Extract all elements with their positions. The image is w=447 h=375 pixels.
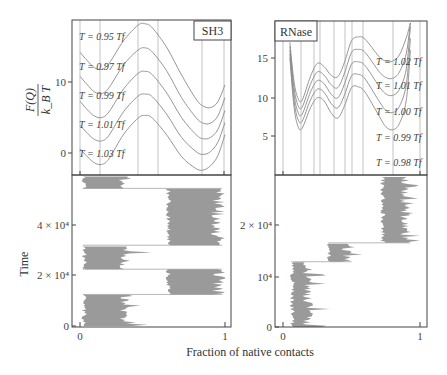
trajectory-segment	[327, 244, 363, 262]
sh3-time-axis: 0 2 × 10⁴ 4 × 10⁴	[37, 219, 76, 332]
trajectory-segment	[82, 295, 148, 326]
sh3-time-tick-label: 0	[64, 320, 70, 332]
sh3-y-tick-label: 10	[55, 76, 67, 88]
sh3-y-tick-label: 0	[61, 147, 67, 159]
trajectory-segment	[166, 189, 225, 245]
rnase-curve-label: T = 1.01 Tf	[376, 80, 423, 91]
sh3-label-box: SH3	[194, 21, 231, 40]
rnase-label: RNase	[280, 25, 312, 39]
rnase-trajectory	[290, 177, 420, 327]
rnase-curve-label: T = 1.02 Tf	[376, 56, 423, 67]
trajectory-segment	[380, 177, 420, 243]
rnase-curve-label: T = 0.99 Tf	[376, 132, 423, 143]
rnase-curve-label: T = 1.00 Tf	[376, 106, 423, 117]
sh3-curve-label: T = 0.95 Tf	[79, 31, 126, 42]
sh3-x-tick-label: 1	[222, 330, 228, 342]
sh3-label: SH3	[202, 24, 223, 38]
folding-figure: SH3 T = 0.95 Tf T = 0.97 Tf T = 0.99 Tf …	[0, 0, 447, 375]
free-energy-numerator: F(Q)	[23, 88, 37, 113]
rnase-x-tick-label: 0	[280, 330, 286, 342]
sh3-trajectory-panel: 0 2 × 10⁴ 4 × 10⁴ 0 1	[37, 175, 231, 342]
trajectory-segment	[290, 262, 330, 327]
sh3-curve-label: T = 1.01 Tf	[79, 119, 126, 130]
rnase-y-tick-label: 15	[257, 52, 269, 64]
rnase-curve-label: T = 0.98 Tf	[376, 157, 423, 168]
trajectory-segment	[166, 269, 225, 294]
rnase-x-tick-label: 1	[417, 330, 423, 342]
rnase-y-tick-label: 5	[263, 130, 269, 142]
trajectory-segment	[82, 246, 153, 269]
sh3-curve-label: T = 1.03 Tf	[79, 148, 126, 159]
sh3-x-tick-label: 0	[77, 330, 83, 342]
x-axis-title: Fraction of native contacts	[186, 345, 314, 359]
sh3-curve-label: T = 0.97 Tf	[79, 61, 126, 72]
y-axis-title-time: Time	[17, 252, 31, 277]
rnase-time-tick-label: 0	[267, 321, 273, 333]
sh3-time-tick-label: 2 × 10⁴	[37, 269, 69, 281]
trajectory-segment	[82, 176, 131, 188]
sh3-time-tick-label: 4 × 10⁴	[37, 219, 69, 231]
rnase-free-energy-panel: RNase T = 1.02 Tf T = 1.01 Tf T = 1.00 T…	[257, 21, 427, 175]
rnase-trajectory-panel: 0 10⁴ 2 × 10⁴ 0 1	[240, 175, 427, 342]
rnase-time-tick-label: 10⁴	[257, 271, 272, 283]
rnase-y-tick-label: 10	[257, 92, 269, 104]
sh3-trajectory	[82, 176, 226, 326]
free-energy-denominator: k_B T	[39, 85, 53, 115]
rnase-time-axis: 0 10⁴ 2 × 10⁴	[240, 219, 279, 333]
sh3-free-energy-panel: SH3 T = 0.95 Tf T = 0.97 Tf T = 0.99 Tf …	[55, 20, 231, 175]
sh3-curve-label: T = 0.99 Tf	[79, 90, 126, 101]
rnase-time-tick-label: 2 × 10⁴	[240, 219, 272, 231]
y-axis-title-free-energy: F(Q) k_B T	[23, 84, 53, 116]
rnase-label-box: RNase	[275, 21, 317, 41]
